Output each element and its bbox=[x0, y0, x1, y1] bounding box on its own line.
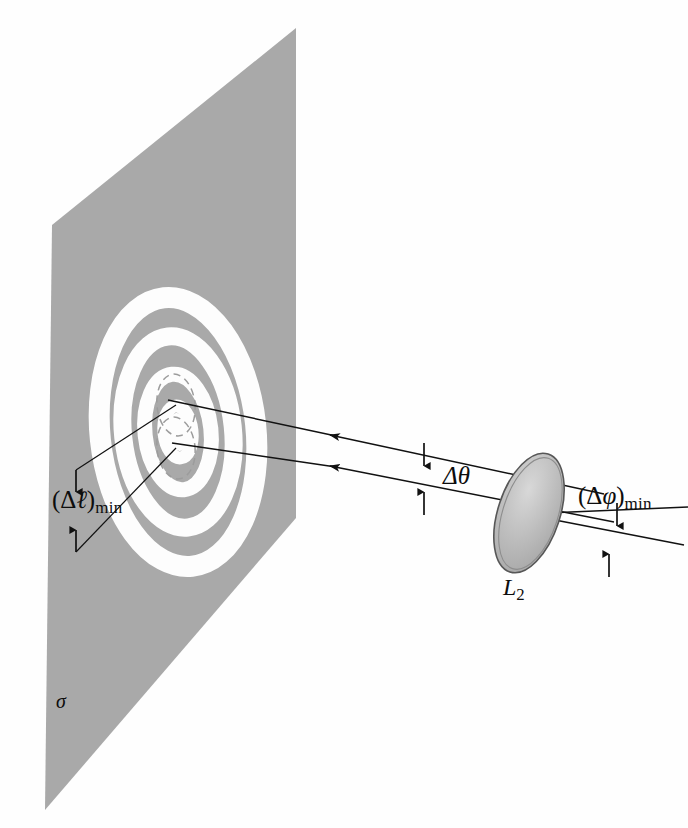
lens-subscript: 2 bbox=[516, 585, 524, 604]
dimension-delta-phi bbox=[609, 503, 617, 577]
figure-canvas: (Δℓ)min Δθ (Δφ)min L2 σ bbox=[0, 0, 688, 828]
lens-letter: L bbox=[503, 574, 516, 600]
sigma-symbol: σ bbox=[56, 690, 66, 712]
delta-phi-subscript: min bbox=[625, 494, 652, 513]
delta-phi-prefix: (Δ bbox=[578, 482, 602, 509]
delta-phi-symbol: φ bbox=[602, 482, 616, 509]
delta-phi-suffix: ) bbox=[616, 482, 624, 509]
delta-l-prefix: (Δ bbox=[52, 486, 76, 513]
ray-lower-to-screen bbox=[330, 466, 614, 522]
label-delta-phi-min: (Δφ)min bbox=[578, 482, 652, 514]
delta-l-symbol: ℓ bbox=[76, 486, 86, 513]
optics-diagram bbox=[0, 0, 688, 828]
label-delta-l-min: (Δℓ)min bbox=[52, 486, 123, 518]
delta-theta-symbol: Δθ bbox=[443, 462, 470, 489]
label-delta-theta: Δθ bbox=[443, 462, 470, 490]
delta-l-suffix: ) bbox=[87, 486, 95, 513]
label-lens-L2: L2 bbox=[503, 574, 525, 605]
delta-l-subscript: min bbox=[95, 498, 122, 517]
label-screen-sigma: σ bbox=[56, 690, 66, 713]
